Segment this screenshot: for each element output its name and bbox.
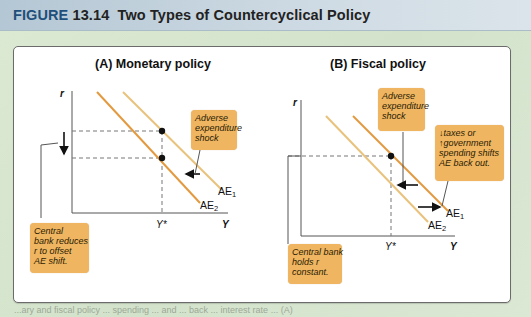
panel-b-ae2-label: AE2	[428, 219, 446, 233]
panel-a-point-low	[159, 155, 165, 161]
panel-b-fiscal-callout: ↓taxes or ↑government spending shifts AE…	[435, 125, 504, 181]
panel-a-ae1-label: AE1	[218, 185, 236, 199]
panel-b-shock-callout: Adverse expenditure shock	[378, 88, 425, 131]
panel-b-y-axis-label: r	[293, 97, 297, 108]
panel-b-point	[388, 153, 394, 159]
panel-a-point-high	[159, 128, 165, 134]
panel-b-central-bank-callout: Central bank holds r constant.	[288, 244, 342, 284]
panel-a-y-axis-label: r	[60, 88, 64, 99]
panel-b-x-axis-label: Y	[450, 241, 457, 252]
panel-b-ystar-label: Y*	[385, 241, 396, 252]
panel-b-title: (B) Fiscal policy	[330, 57, 426, 71]
panel-a-x-axis-label: Y	[222, 219, 229, 230]
panel-a-ystar-label: Y*	[156, 219, 167, 230]
panel-a-ae2-label: AE2	[200, 199, 218, 213]
panel-a-ae2-curve	[97, 92, 200, 203]
figure-caption: ...ary and fiscal policy ... spending ..…	[14, 305, 524, 317]
panel-b-ae2-curve	[326, 116, 428, 222]
panel-b-ae1-label: AE1	[446, 207, 464, 221]
panel-a-title: (A) Monetary policy	[95, 57, 211, 71]
panel-a-central-bank-callout: Central bank reduces r to offset AE shif…	[30, 223, 89, 273]
panel-a-shock-callout: Adverse expenditure shock	[191, 110, 237, 150]
